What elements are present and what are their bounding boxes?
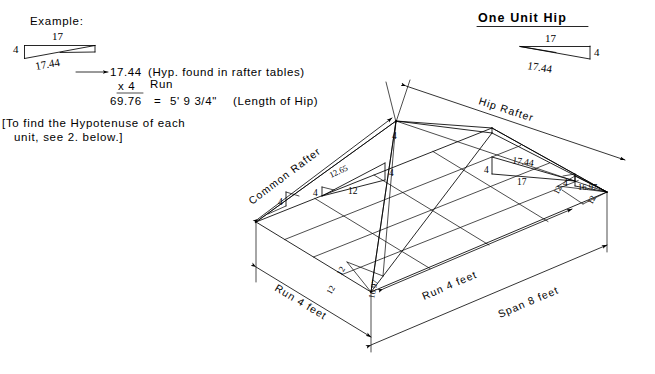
hip-rafter-technical-drawing: Example: 4 17 17.44 17.44 (Hyp. found in… — [0, 0, 655, 374]
one-unit-hip-triangle — [520, 46, 590, 59]
run-right-label: Run 4 feet — [420, 268, 478, 302]
calc-line1-note: (Hyp. found in rafter tables) — [148, 66, 305, 78]
common-triangle-run-label: 12 — [348, 186, 358, 196]
calc-length-note: (Length of Hip) — [233, 95, 318, 107]
hypotenuse-note-line1: [To find the Hypotenuse of each — [2, 117, 185, 129]
calc-result: 69.76 — [110, 95, 142, 107]
apex-rise-label: 4 — [392, 131, 397, 141]
calc-equals: = — [154, 95, 161, 107]
hip-triangle-run-label: 17 — [517, 177, 527, 187]
apex-leader-stem-left — [386, 82, 396, 122]
example-triangle — [25, 46, 96, 59]
calc-run-note: Run — [150, 78, 173, 90]
hypotenuse-note-line2: unit, see 2. below.] — [14, 131, 123, 143]
corner-triangle-side-left-label: 12 — [551, 184, 564, 196]
base-near-12-label: 12 — [324, 284, 337, 296]
ceiling-grid — [285, 146, 579, 275]
drawing-page: Example: 4 17 17.44 17.44 (Hyp. found in… — [0, 0, 655, 374]
left-eave-rise-label: 4 — [278, 197, 283, 207]
calc-multiplier: x 4 — [118, 80, 135, 92]
span-label: Span 8 feet — [496, 284, 560, 320]
corner-triangle-hyp-label: 16.97 — [578, 182, 597, 192]
hip-triangle-hyp-label: 17.44 — [512, 155, 535, 168]
run-left-label: Run 4 feet — [273, 281, 329, 321]
example-hyp-label: 17.44 — [34, 56, 61, 72]
base-left-12-label: 12 — [334, 265, 347, 277]
one-unit-hip-rise-label: 4 — [594, 46, 600, 58]
one-unit-hip-heading: One Unit Hip — [478, 11, 567, 25]
example-heading: Example: — [30, 15, 84, 27]
example-rise-label: 4 — [13, 43, 19, 55]
corner-triangle-side-right-label: 12 — [585, 194, 598, 206]
apex-leader-stem-right — [396, 80, 410, 122]
common-triangle-hyp-label: 12.65 — [328, 163, 350, 180]
common-triangle-rise-left-label: 4 — [313, 188, 318, 198]
example-run-label: 17 — [52, 30, 64, 42]
common-rafter-label: Common Rafter — [246, 145, 323, 207]
hip-rafter-label: Hip Rafter — [477, 94, 535, 123]
hip-triangle-rise-left-label: 4 — [484, 165, 489, 175]
calc-line1-value: 17.44 — [110, 66, 142, 78]
one-unit-hip-run-label: 17 — [545, 32, 557, 44]
dimension-span — [371, 245, 607, 345]
common-triangle-rise-right-label: 4 — [389, 168, 394, 178]
calc-feet-inches: 5' 9 3/4" — [170, 95, 217, 107]
one-unit-hip-hyp-label: 17.44 — [527, 59, 554, 75]
